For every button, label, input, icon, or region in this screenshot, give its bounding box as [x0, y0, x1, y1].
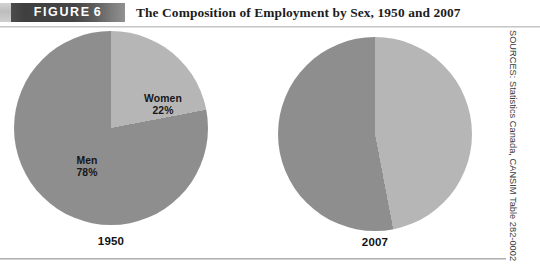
pie-1950-label-men: Men 78%	[50, 155, 124, 180]
pie-1950-label-women: Women 22%	[126, 93, 200, 118]
charts-container: Women 22% Men 78% 1950 Men 53% Women 47%…	[0, 28, 540, 256]
pie-1950-men-value: 78%	[50, 167, 124, 179]
pie-1950-women-value: 22%	[126, 105, 200, 117]
figure-header: FIGURE6 The Composition of Employment by…	[0, 0, 540, 26]
figure-badge-label: FIGURE	[34, 5, 94, 19]
pie-1950-women-name: Women	[126, 93, 200, 105]
pie-1950-caption: 1950	[14, 235, 208, 247]
source-note: SOURCES: Statistics Canada, CANSIM Table…	[506, 30, 520, 258]
pie-chart-1950: Women 22% Men 78%	[14, 31, 208, 225]
header-left-accent	[0, 3, 11, 22]
pie-1950-men-name: Men	[50, 155, 124, 167]
pie-2007-slices	[278, 37, 472, 231]
figure-badge-number: 6	[94, 5, 103, 19]
page-title: The Composition of Employment by Sex, 19…	[136, 3, 461, 22]
pie-2007-caption: 2007	[278, 236, 472, 248]
pie-chart-2007: Men 53% Women 47%	[278, 37, 472, 231]
footer-divider	[0, 258, 506, 260]
pie-1950-slices	[14, 31, 208, 225]
figure-panel: FIGURE6 The Composition of Employment by…	[0, 0, 540, 271]
figure-number-badge: FIGURE6	[11, 3, 125, 22]
